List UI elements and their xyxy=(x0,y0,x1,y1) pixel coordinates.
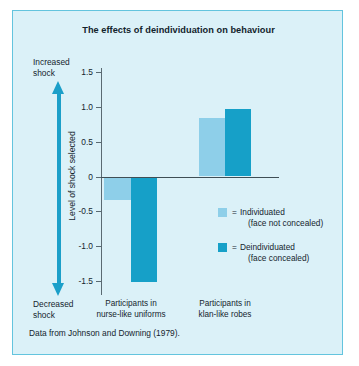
increased-shock-label: Increased shock xyxy=(33,57,111,78)
category-label-line2: klan-like robes xyxy=(199,310,252,319)
legend-equals-sign: = xyxy=(232,242,237,253)
legend: = Individuated (face not concealed) = De… xyxy=(218,207,342,277)
legend-equals-sign: = xyxy=(232,207,237,218)
figure-panel: The effects of deindividuation on behavi… xyxy=(12,10,343,355)
category-label-klan: Participants in klan-like robes xyxy=(177,299,273,320)
legend-sublabel-deindividuated: (face concealed) xyxy=(240,253,342,264)
increased-shock-line1: Increased xyxy=(33,57,70,67)
legend-item-deindividuated: = Deindividuated (face concealed) xyxy=(218,242,342,263)
legend-swatch-individuated xyxy=(218,208,227,217)
increased-shock-line2: shock xyxy=(33,68,55,78)
source-caption: Data from Johnson and Downing (1979). xyxy=(29,328,180,338)
legend-sublabel-individuated: (face not concealed) xyxy=(240,218,342,229)
y-tick-mark xyxy=(96,281,101,282)
legend-label-individuated: Individuated xyxy=(240,207,285,217)
y-tick-mark xyxy=(96,142,101,143)
bar-nurse-deindividuated xyxy=(131,178,157,282)
legend-item-individuated: = Individuated (face not concealed) xyxy=(218,207,342,228)
legend-label-deindividuated: Deindividuated xyxy=(240,242,295,252)
bar-nurse-individuated xyxy=(104,178,131,201)
decreased-shock-label: Decreased shock xyxy=(33,299,111,320)
y-tick-mark xyxy=(96,107,101,108)
y-tick-mark xyxy=(96,246,101,247)
category-label-line1: Participants in xyxy=(199,299,250,308)
decreased-shock-line1: Decreased xyxy=(33,299,74,309)
y-tick-mark xyxy=(96,211,101,212)
arrow-down-icon xyxy=(52,283,64,296)
y-tick-mark xyxy=(96,177,101,178)
arrow-shaft xyxy=(57,93,61,284)
shock-level-arrow: Level of shock selected xyxy=(43,81,73,296)
bar-klan-deindividuated xyxy=(225,109,251,177)
bar-klan-individuated xyxy=(199,118,225,177)
y-axis-line xyxy=(101,68,102,295)
category-label-line1: Participants in xyxy=(105,299,156,308)
legend-swatch-deindividuated xyxy=(218,243,227,252)
y-axis-title: Level of shock selected xyxy=(67,86,77,266)
decreased-shock-line2: shock xyxy=(33,310,55,320)
